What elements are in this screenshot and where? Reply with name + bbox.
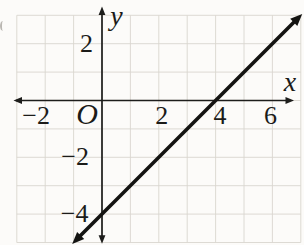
y-tick-label: −2	[61, 142, 89, 171]
scan-speck-artifact	[0, 21, 6, 31]
x-tick-label: 4	[214, 101, 227, 130]
x-tick-label: 6	[264, 101, 277, 130]
x-tick-label: −2	[22, 101, 50, 130]
x-axis-left-arrowhead	[14, 97, 23, 104]
x-axis-label: x	[283, 66, 297, 97]
x-tick-label: 2	[155, 101, 168, 130]
x-axis-right-arrowhead	[286, 97, 295, 104]
y-tick-label: −4	[61, 199, 89, 228]
y-tick-label: 2	[80, 29, 93, 58]
origin-label: O	[76, 97, 98, 130]
graph-figure: −22462−2−4Oxy	[0, 0, 304, 245]
y-axis-label: y	[107, 0, 123, 31]
y-axis-top-arrowhead	[99, 7, 106, 16]
coordinate-plane-svg: −22462−2−4Oxy	[0, 0, 304, 245]
